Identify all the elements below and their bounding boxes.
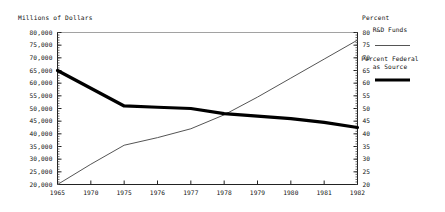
x-tick-label: 1981 — [317, 189, 332, 196]
right-tick-label: 30 — [363, 155, 371, 162]
right-tick-label: 35 — [363, 143, 371, 150]
x-tick-label: 1982 — [350, 189, 365, 196]
right-tick-label: 25 — [363, 168, 371, 175]
legend-label-percent-federal-line2: as Source — [373, 63, 408, 70]
x-tick-label: 1970 — [83, 189, 98, 196]
legend-label-rd-funds: R&D Funds — [373, 26, 408, 33]
left-tick-label: 35,000 — [30, 143, 53, 150]
x-tick-label: 1975 — [117, 189, 132, 196]
left-tick-label: 40,000 — [30, 130, 53, 137]
right-tick-label: 55 — [363, 92, 371, 99]
right-tick-label: 40 — [363, 130, 371, 137]
chart-container: Millions of Dollars Percent 80,00075,000… — [0, 0, 445, 212]
left-tick-label: 20,000 — [30, 181, 53, 188]
right-axis-minor-ticks — [356, 33, 358, 185]
left-tick-label: 45,000 — [30, 117, 53, 124]
dual-axis-line-chart: Millions of Dollars Percent 80,00075,000… — [0, 0, 445, 212]
left-tick-label: 70,000 — [30, 54, 53, 61]
x-tick-label: 1965 — [50, 189, 65, 196]
left-tick-label: 65,000 — [30, 67, 53, 74]
left-axis-minor-ticks — [58, 33, 60, 185]
left-tick-label: 75,000 — [30, 41, 53, 48]
x-tick-label: 1976 — [150, 189, 165, 196]
right-tick-label: 20 — [363, 181, 371, 188]
right-tick-label: 50 — [363, 105, 371, 112]
right-tick-label: 80 — [363, 29, 371, 36]
legend-label-percent-federal-line1: Percent Federal — [361, 55, 419, 62]
right-tick-label: 65 — [363, 67, 371, 74]
right-tick-label: 45 — [363, 117, 371, 124]
right-tick-label: 75 — [363, 41, 371, 48]
x-tick-label: 1979 — [250, 189, 265, 196]
left-tick-label: 25,000 — [30, 168, 53, 175]
left-tick-label: 55,000 — [30, 92, 53, 99]
left-axis-title: Millions of Dollars — [18, 14, 93, 21]
left-tick-label: 30,000 — [30, 155, 53, 162]
right-tick-label: 60 — [363, 79, 371, 86]
x-tick-label: 1980 — [283, 189, 298, 196]
left-tick-label: 60,000 — [30, 79, 53, 86]
right-axis-title: Percent — [362, 14, 390, 21]
left-tick-label: 50,000 — [30, 105, 53, 112]
x-tick-label: 1978 — [217, 189, 232, 196]
x-tick-label: 1977 — [183, 189, 198, 196]
left-tick-label: 80,000 — [30, 29, 53, 36]
